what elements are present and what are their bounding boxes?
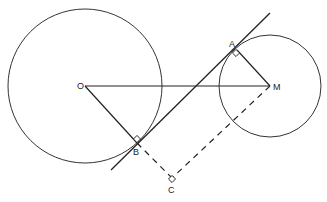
label-A: A — [229, 39, 235, 49]
segment-MA — [237, 50, 270, 86]
geometry-diagram: O M A B C — [0, 0, 327, 202]
right-angle-marker-C — [168, 175, 175, 182]
diagram-canvas: O M A B C — [0, 0, 327, 202]
segment-BC — [137, 143, 172, 178]
label-C: C — [168, 185, 175, 195]
label-M: M — [273, 82, 281, 92]
label-O: O — [77, 81, 84, 91]
segment-OB — [85, 86, 137, 143]
label-B: B — [133, 147, 139, 157]
